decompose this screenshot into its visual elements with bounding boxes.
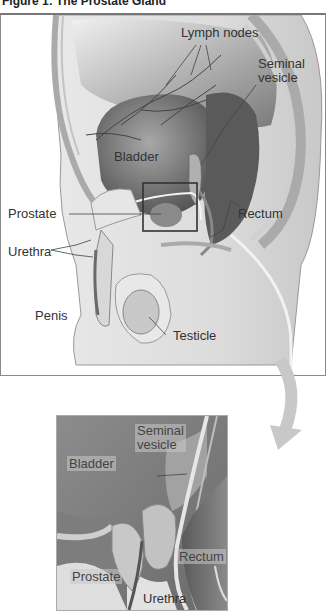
- inset-label-seminal-vesicle-line2: vesicle: [137, 438, 184, 452]
- label-seminal-vesicle-line2: vesicle: [258, 71, 305, 85]
- inset-label-urethra: Urethra: [143, 591, 186, 606]
- label-penis: Penis: [35, 308, 68, 323]
- label-testicle: Testicle: [173, 328, 216, 343]
- label-seminal-vesicle: Seminal vesicle: [258, 57, 305, 85]
- label-urethra: Urethra: [8, 244, 51, 259]
- main-anatomy-panel: Lymph nodes Seminal vesicle Bladder Pros…: [0, 13, 326, 376]
- inset-label-seminal-vesicle-line1: Seminal: [137, 424, 184, 438]
- label-bladder: Bladder: [114, 149, 159, 164]
- label-rectum: Rectum: [238, 206, 283, 221]
- inset-label-seminal-vesicle: Seminal vesicle: [135, 424, 186, 452]
- label-lymph-nodes: Lymph nodes: [181, 25, 259, 40]
- label-seminal-vesicle-line1: Seminal: [258, 57, 305, 71]
- inset-anatomy-panel: Seminal vesicle Bladder Prostate Urethra…: [56, 415, 228, 611]
- inset-label-rectum: Rectum: [177, 549, 226, 564]
- inset-label-bladder: Bladder: [67, 456, 116, 471]
- figure-title: Figure 1: The Prostate Gland: [2, 0, 166, 8]
- inset-label-prostate: Prostate: [70, 569, 122, 584]
- label-prostate: Prostate: [8, 206, 56, 221]
